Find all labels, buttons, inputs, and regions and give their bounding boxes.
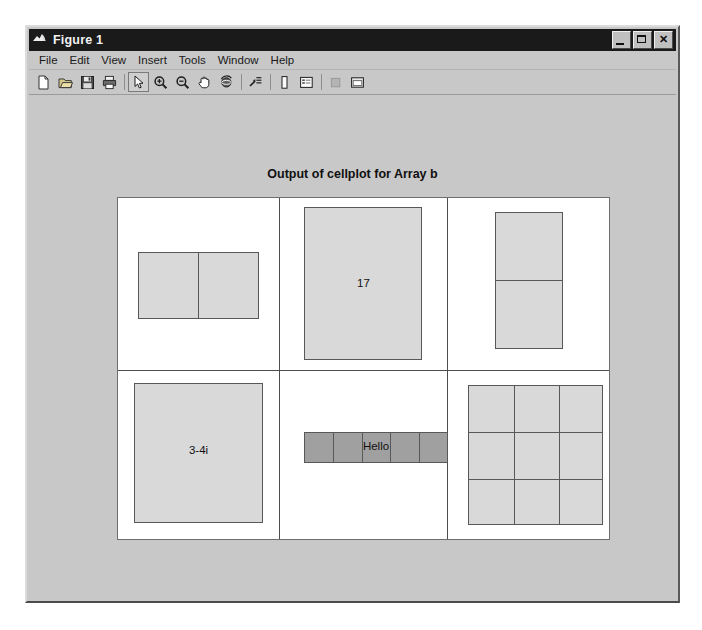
window-controls: ✕ [612, 31, 673, 49]
cell-subdivider-r2c3-h1 [469, 432, 602, 433]
cell-label-r2c1: 3-4i [118, 444, 279, 456]
show-plot-tools-icon[interactable] [347, 72, 368, 92]
maximize-button[interactable] [633, 31, 652, 49]
minimize-button[interactable] [612, 31, 631, 49]
menu-item-file[interactable]: File [33, 53, 64, 67]
menu-item-window[interactable]: Window [212, 53, 265, 67]
menu-bar: File Edit View Insert Tools Window Help [29, 51, 676, 70]
save-figure-icon[interactable] [77, 72, 98, 92]
title-bar[interactable]: Figure 1 ✕ [29, 29, 676, 51]
menu-item-edit[interactable]: Edit [64, 53, 96, 67]
menu-item-view[interactable]: View [95, 53, 132, 67]
zoom-out-icon[interactable] [172, 72, 193, 92]
matlab-membrane-icon [32, 32, 49, 48]
zoom-in-icon[interactable] [150, 72, 171, 92]
window-title: Figure 1 [53, 33, 103, 47]
figure-canvas: Output of cellplot for Array b 17 [29, 95, 676, 599]
cell-block-r1c1 [138, 252, 259, 319]
cell-block-r2c3 [468, 385, 603, 525]
cell-r2c1[interactable]: 3-4i [118, 371, 279, 540]
cellplot-axes: 17 3-4i Hello [117, 197, 610, 540]
toolbar-separator-3 [267, 73, 274, 91]
cell-r2c3[interactable] [448, 371, 609, 540]
cell-subdivider-r1c3-h1 [496, 280, 562, 281]
insert-colorbar-icon[interactable] [274, 72, 295, 92]
hide-plot-tools-icon[interactable] [325, 72, 346, 92]
pointer-select-icon[interactable] [128, 72, 149, 92]
data-cursor-icon[interactable] [245, 72, 266, 92]
menu-item-insert[interactable]: Insert [132, 53, 173, 67]
menu-item-tools[interactable]: Tools [173, 53, 212, 67]
plot-title: Output of cellplot for Array b [29, 167, 676, 181]
figure-window: Figure 1 ✕ File Edit View Insert Tools W… [25, 25, 680, 603]
rotate-3d-icon[interactable] [216, 72, 237, 92]
cell-subdivider-r1c1-v1 [198, 253, 199, 318]
insert-legend-icon[interactable] [296, 72, 317, 92]
new-figure-icon[interactable] [33, 72, 54, 92]
cell-r1c1[interactable] [118, 198, 279, 370]
cell-subdivider-r2c3-v2 [559, 386, 560, 524]
cell-subdivider-r2c3-h2 [469, 479, 602, 480]
open-file-icon[interactable] [55, 72, 76, 92]
cell-r1c2[interactable]: 17 [280, 198, 447, 370]
cell-r2c2[interactable]: Hello [280, 371, 447, 540]
cell-label-r2c2: Hello [304, 440, 448, 452]
cell-block-r1c3 [495, 212, 563, 349]
toolbar-separator-1 [121, 73, 128, 91]
toolbar-separator-4 [318, 73, 325, 91]
cell-label-r1c2: 17 [280, 277, 447, 289]
close-button[interactable]: ✕ [654, 31, 673, 49]
menu-item-help[interactable]: Help [265, 53, 301, 67]
cell-subdivider-r2c3-v1 [514, 386, 515, 524]
cell-r1c3[interactable] [448, 198, 609, 370]
pan-hand-icon[interactable] [194, 72, 215, 92]
print-figure-icon[interactable] [99, 72, 120, 92]
toolbar-separator-2 [238, 73, 245, 91]
toolbar [29, 70, 676, 95]
